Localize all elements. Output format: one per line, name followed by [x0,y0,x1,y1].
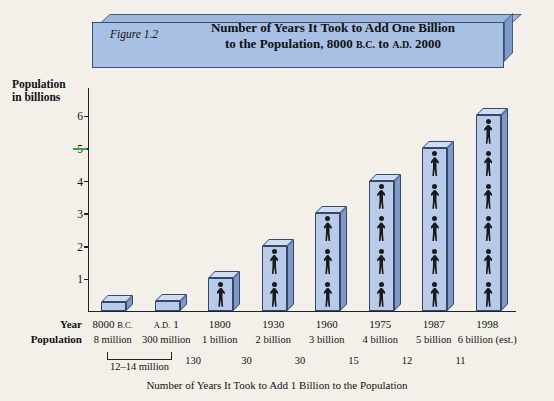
bar [315,213,340,311]
title-seg-a: to the Population, 8000 [225,36,356,51]
bar [422,148,447,311]
bar [369,181,394,311]
person-icon [482,282,495,308]
figure-title: Number of Years It Took to Add One Billi… [170,20,496,53]
y-axis-label-line2: in billions [12,91,66,104]
year-cell: 1998 [453,318,521,330]
highlight-marker [73,148,87,150]
person-icon [482,249,495,275]
bar-side [287,239,294,311]
bar-side [501,108,508,311]
bar-side [394,174,401,311]
person-icon [482,184,495,210]
bar-side [340,206,347,311]
person-icon [482,119,495,145]
y-tick-mark [84,181,89,183]
person-icon [428,184,441,210]
title-seg-c: 2000 [412,36,441,51]
person-icon [428,216,441,242]
bar [476,115,501,311]
person-icon [321,216,334,242]
person-icon [375,249,388,275]
title-seg-bc: B.C. [356,39,375,50]
figure-label: Figure 1.2 [110,28,158,40]
title-banner: Figure 1.2 Number of Years It Took to Ad… [92,14,512,68]
y-tick-mark [84,279,89,281]
y-tick-mark [84,246,89,248]
person-icon [375,282,388,308]
bar-side [233,271,240,311]
bar [101,302,126,311]
person-icon [375,216,388,242]
row-label-year: Year [20,318,82,330]
figure-title-line1: Number of Years It Took to Add One Billi… [170,20,496,36]
person-icon [482,151,495,177]
bar [155,301,180,311]
figure-title-line2: to the Population, 8000 B.C. to A.D. 200… [170,36,496,53]
person-icon [321,249,334,275]
interval-label: 11 [416,355,506,366]
bar [208,278,233,311]
y-axis-label-line1: Population [12,78,66,91]
person-icon [482,216,495,242]
person-icon [321,282,334,308]
bar [262,246,287,311]
plot-area: 123456 [88,88,516,312]
population-cell: 6 billion (est.) [447,334,527,345]
person-icon [428,282,441,308]
person-icon [268,249,281,275]
bar-side [447,141,454,311]
person-icon [428,249,441,275]
title-seg-ad: A.D. [392,39,411,50]
bar-face [155,301,180,311]
bar-face [101,302,126,311]
y-tick-mark [84,116,89,118]
person-icon [428,151,441,177]
y-tick-mark [84,213,89,215]
title-seg-b: to [375,36,392,51]
figure-page: Figure 1.2 Number of Years It Took to Ad… [0,0,554,401]
person-icon [268,282,281,308]
y-axis-label: Population in billions [12,78,66,104]
person-icon [375,184,388,210]
x-axis-caption: Number of Years It Took to Add 1 Billion… [0,379,554,391]
person-icon [214,282,227,308]
banner-right-edge [504,13,513,62]
